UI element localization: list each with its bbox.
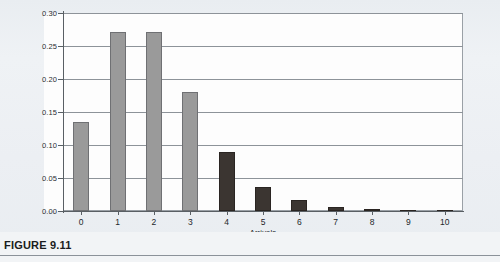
bar	[73, 122, 89, 211]
caption-rule	[0, 255, 500, 256]
y-tick-label: 0.20	[17, 75, 57, 84]
bar	[291, 200, 307, 211]
x-tick-label: 7	[324, 217, 348, 227]
gridline	[63, 13, 463, 14]
bar	[219, 152, 235, 211]
x-tick-label: 9	[396, 217, 420, 227]
y-tick-label: 0.30	[17, 9, 57, 18]
y-axis-line	[63, 11, 64, 213]
y-tick-label: 0.05	[17, 174, 57, 183]
figure-caption: FIGURE 9.11	[4, 239, 72, 251]
y-tick-label: 0.25	[17, 42, 57, 51]
y-tick-label: 0.00	[17, 207, 57, 216]
x-tick-label: 0	[69, 217, 93, 227]
y-tick-label: 0.15	[17, 108, 57, 117]
x-tick-label: 10	[433, 217, 457, 227]
x-tick-label: 5	[251, 217, 275, 227]
x-tick-label: 1	[106, 217, 130, 227]
x-tick-label: 2	[142, 217, 166, 227]
bar	[110, 32, 126, 211]
caption-band	[0, 232, 500, 262]
x-tick-label: 8	[360, 217, 384, 227]
bar	[146, 32, 162, 211]
x-tick-label: 6	[287, 217, 311, 227]
figure-page: 0.000.050.100.150.200.250.30 01234567891…	[0, 0, 500, 262]
x-tick-label: 3	[178, 217, 202, 227]
x-axis-line	[58, 211, 464, 212]
chart-figure: 0.000.050.100.150.200.250.30 01234567891…	[0, 0, 500, 235]
bar	[182, 92, 198, 211]
bar	[255, 187, 271, 211]
x-tick-label: 4	[215, 217, 239, 227]
y-tick-label: 0.10	[17, 141, 57, 150]
